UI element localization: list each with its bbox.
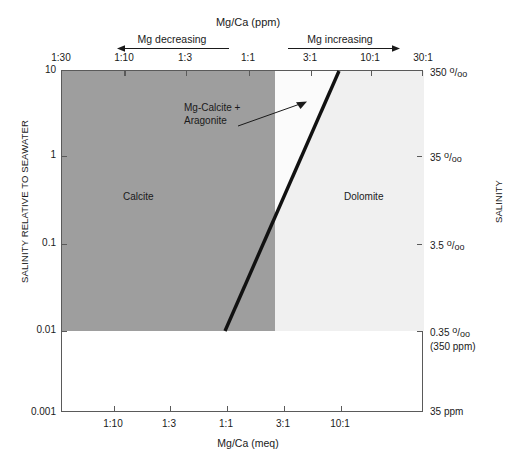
tick-bottom-1-1 bbox=[227, 406, 228, 411]
tick-right-35-permil bbox=[417, 156, 422, 157]
tick-left-0-1 bbox=[62, 244, 67, 245]
tick-bottom-1-10 bbox=[114, 406, 115, 411]
dolomite-region-label: Dolomite bbox=[344, 191, 383, 203]
tick-bottom-3-1 bbox=[284, 406, 285, 411]
tick-top-1-1 bbox=[249, 71, 250, 76]
tick-top-3-1 bbox=[311, 71, 312, 76]
tick-top-30-1 bbox=[422, 71, 423, 76]
tick-bottom-1-3 bbox=[170, 406, 171, 411]
bottom-tick-label-10-1: 10:1 bbox=[330, 418, 349, 430]
right-tick-value-3-5: 3.5 bbox=[430, 240, 444, 251]
right-tick-sublabel-350-ppm: (350 ppm) bbox=[430, 341, 476, 353]
bottom-axis-title: Mg/Ca (meq) bbox=[217, 437, 278, 449]
phase-diagram-figure: Mg/Ca (ppm) Mg decreasing Mg increasing … bbox=[0, 0, 507, 466]
bottom-tick-label-1-10: 1:10 bbox=[103, 418, 122, 430]
tick-top-1-10 bbox=[125, 71, 126, 76]
right-tick-label-35-ppm: 35 ppm bbox=[430, 406, 463, 418]
top-axis-title: Mg/Ca (ppm) bbox=[216, 16, 280, 28]
mg-calcite-aragonite-region-label: Mg-Calcite + Aragonite bbox=[184, 102, 240, 127]
right-tick-value-0-35: 0.35 bbox=[430, 327, 449, 338]
bottom-tick-label-1-3: 1:3 bbox=[162, 418, 176, 430]
tick-top-1-3 bbox=[186, 71, 187, 76]
top-tick-label-1-30: 1:30 bbox=[51, 52, 70, 64]
right-tick-label-35-permil: 35 o/oo bbox=[430, 149, 462, 165]
bottom-tick-label-1-1: 1:1 bbox=[219, 418, 233, 430]
tick-right-3-5-permil bbox=[417, 244, 422, 245]
mg-calcite-aragonite-leader-arrow-icon bbox=[238, 98, 308, 130]
top-tick-label-1-1: 1:1 bbox=[241, 52, 255, 64]
plot-area: Calcite Dolomite Mg-Calcite + Aragonite bbox=[61, 70, 423, 412]
tick-left-0-01 bbox=[62, 331, 67, 332]
left-tick-label-0-001: 0.001 bbox=[31, 406, 56, 418]
top-tick-label-30-1: 30:1 bbox=[413, 52, 432, 64]
left-tick-label-10: 10 bbox=[45, 64, 56, 76]
right-tick-value-35: 35 bbox=[430, 152, 441, 163]
left-tick-label-1: 1 bbox=[50, 149, 56, 161]
right-axis-title: SALINITY bbox=[493, 152, 504, 252]
left-tick-label-0-01: 0.01 bbox=[37, 324, 56, 336]
top-tick-label-3-1: 3:1 bbox=[303, 52, 317, 64]
tick-top-10-1 bbox=[371, 71, 372, 76]
right-tick-label-350-permil: 350 o/oo bbox=[430, 64, 467, 80]
left-tick-label-0-1: 0.1 bbox=[42, 237, 56, 249]
right-tick-label-3-5-permil: 3.5 o/oo bbox=[430, 237, 465, 253]
top-tick-label-1-3: 1:3 bbox=[178, 52, 192, 64]
top-tick-label-1-10: 1:10 bbox=[114, 52, 133, 64]
right-tick-value-350: 350 bbox=[430, 67, 447, 78]
bottom-tick-label-3-1: 3:1 bbox=[276, 418, 290, 430]
calcite-region-label: Calcite bbox=[123, 191, 154, 203]
right-tick-label-0-35-permil: 0.35 o/oo (350 ppm) bbox=[430, 324, 476, 353]
tick-right-0-35-permil bbox=[417, 331, 422, 332]
mg-decreasing-arrow-icon bbox=[117, 44, 229, 53]
top-tick-label-10-1: 10:1 bbox=[360, 52, 379, 64]
left-axis-title: SALINITY RELATIVE TO SEAWATER bbox=[19, 102, 30, 302]
tick-left-1 bbox=[62, 156, 67, 157]
tick-bottom-10-1 bbox=[341, 406, 342, 411]
